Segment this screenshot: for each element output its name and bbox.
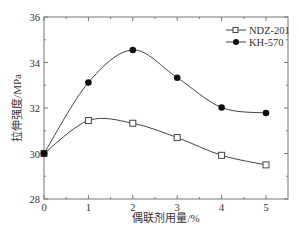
x-tick-label: 1 <box>86 202 91 213</box>
y-axis-label: 拉伸强度/MPa <box>10 74 23 142</box>
x-tick-label: 5 <box>263 202 268 213</box>
series-line-ndz-201 <box>44 118 266 165</box>
x-axis-label: 偶联剂用量/% <box>132 211 199 224</box>
data-point-square <box>174 135 180 141</box>
y-tick-label: 30 <box>30 149 41 160</box>
data-point-circle <box>263 110 270 117</box>
data-point-square <box>85 118 91 124</box>
y-tick-label: 28 <box>30 194 41 205</box>
y-tick-label: 32 <box>30 103 41 114</box>
x-axis: 012345 <box>41 17 268 213</box>
tensile-strength-chart: 2830323436 012345 NDZ-201KH-570 偶联剂用量/% … <box>0 0 300 230</box>
legend-circle-icon <box>233 39 239 45</box>
series-group <box>41 47 270 168</box>
data-point-square <box>219 152 225 158</box>
legend-square-icon <box>233 28 238 33</box>
legend: NDZ-201KH-570 <box>226 25 290 48</box>
legend-label: NDZ-201 <box>249 25 290 36</box>
data-point-square <box>130 120 136 126</box>
data-point-circle <box>218 104 225 111</box>
data-point-circle <box>174 74 181 81</box>
data-point-square <box>263 162 269 168</box>
legend-label: KH-570 <box>249 37 283 48</box>
series-line-kh-570 <box>44 50 266 154</box>
y-tick-label: 34 <box>30 58 41 69</box>
data-point-circle <box>85 79 92 86</box>
x-tick-label: 0 <box>41 202 46 213</box>
y-tick-label: 36 <box>30 12 41 23</box>
x-tick-label: 4 <box>219 202 225 213</box>
data-point-circle <box>130 47 137 54</box>
data-point-circle <box>41 150 48 157</box>
